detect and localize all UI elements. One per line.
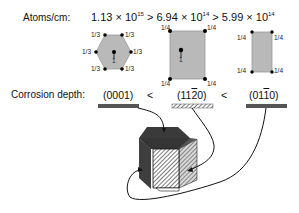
m-frac-tr: 1/4 (274, 34, 283, 41)
a-frac-tr: 1/4 (207, 24, 216, 31)
hex-frac-tr: 1/3 (125, 31, 134, 38)
miller-01-10: (0110) (249, 89, 279, 101)
a-plane-rect (168, 29, 207, 81)
hex-frac-br: 1/3 (125, 65, 134, 72)
miller-11-20: (1120) (177, 89, 207, 101)
corrosion-depth-label: Corrosion depth: (11, 89, 85, 100)
less-than-1: < (147, 89, 153, 101)
a-frac-tl: 1/4 (161, 24, 170, 31)
a-frac-bl: 1/4 (161, 80, 170, 87)
m-frac-tl: 1/4 (237, 34, 246, 41)
crystal-diagram (0, 0, 299, 213)
m-plane-rect (250, 30, 273, 73)
less-than-2: < (221, 89, 227, 101)
hex-frac-bl: 1/3 (91, 65, 100, 72)
bar-0001 (98, 104, 139, 108)
a-frac-center: 1 (179, 56, 183, 63)
m-frac-br: 1/4 (274, 67, 283, 74)
hexagonal-prism (139, 127, 197, 191)
bar-01-10 (246, 104, 287, 108)
m-frac-bl: 1/4 (237, 67, 246, 74)
hex-frac-l: 1/3 (82, 48, 91, 55)
a-frac-br: 1/4 (207, 80, 216, 87)
hex-frac-center: 1 (112, 57, 116, 64)
miller-0001: (0001) (103, 89, 133, 101)
bar-11-20 (172, 104, 213, 108)
hex-frac-tl: 1/3 (91, 31, 100, 38)
hex-frac-r: 1/3 (133, 48, 142, 55)
